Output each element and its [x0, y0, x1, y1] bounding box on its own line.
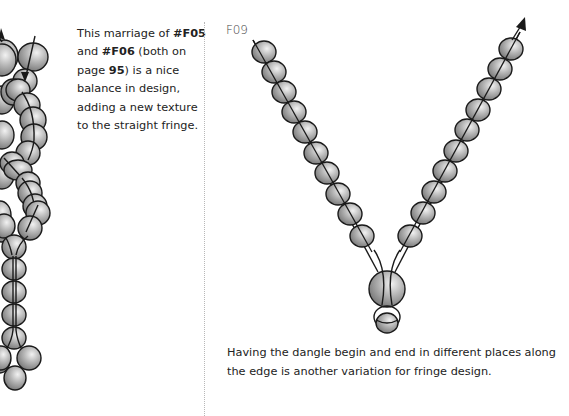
ref-f06: #F06 — [102, 45, 135, 58]
caption-text: and — [77, 45, 102, 58]
figure-label: F09 — [226, 23, 248, 37]
ref-f05: #F05 — [173, 27, 206, 40]
right-caption: Having the dangle begin and end in diffe… — [227, 344, 567, 381]
v-shaped-bead-dangle-icon — [252, 17, 526, 333]
column-divider — [204, 22, 205, 416]
caption-text: This marriage of — [77, 27, 173, 40]
left-caption: This marriage of #F05 and #F06 (both on … — [77, 25, 212, 135]
bead-fringe-combination-icon — [0, 28, 50, 390]
page-ref: 95 — [109, 64, 125, 77]
